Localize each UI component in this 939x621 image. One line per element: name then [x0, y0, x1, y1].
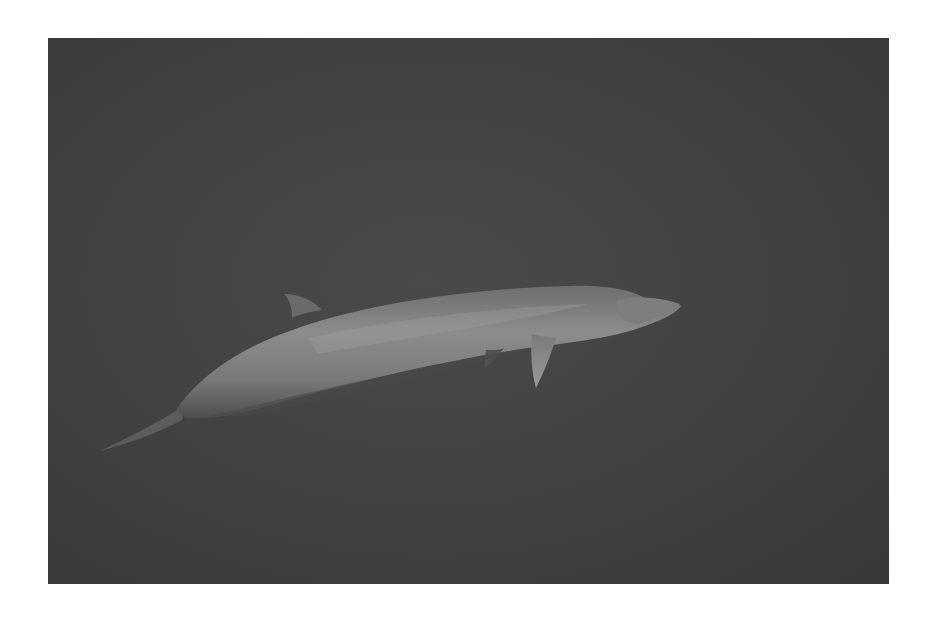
whale-photo: Grayscale photograph of a whale swimming…	[48, 38, 889, 584]
whale-tail	[100, 410, 183, 451]
whale-head	[617, 297, 680, 324]
pectoral-fin	[531, 334, 556, 388]
whale-body	[176, 286, 681, 419]
whale-illustration	[48, 38, 889, 584]
dorsal-fin	[284, 294, 322, 318]
